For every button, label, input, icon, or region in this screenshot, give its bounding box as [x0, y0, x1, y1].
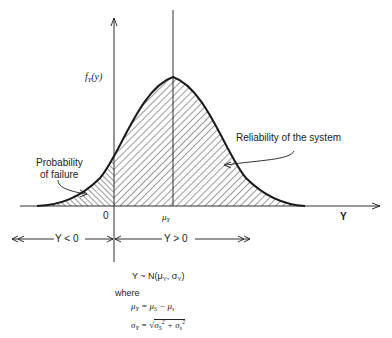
tick-mean: μY [162, 211, 170, 226]
distribution-equation: Y ~ N(μY, σY) [132, 271, 184, 285]
annotation-failure-line2: of failure [40, 169, 78, 181]
failure-pointer [58, 180, 85, 194]
annotation-reliability: Reliability of the system [236, 132, 341, 144]
failure-region [37, 60, 114, 207]
y-axis-label: fY(y) [85, 71, 102, 86]
tick-zero: 0 [103, 210, 109, 222]
annotation-failure-line1: Probability [36, 157, 83, 169]
range-positive-label: Y > 0 [164, 233, 187, 245]
range-negative-label: Y < 0 [55, 233, 78, 245]
where-label: where [115, 288, 140, 299]
sd-equation: σY = √σS2 + σs2 [131, 317, 185, 334]
mean-equation: μY = μS − μs [131, 301, 174, 315]
x-axis-label: Y [340, 211, 347, 223]
